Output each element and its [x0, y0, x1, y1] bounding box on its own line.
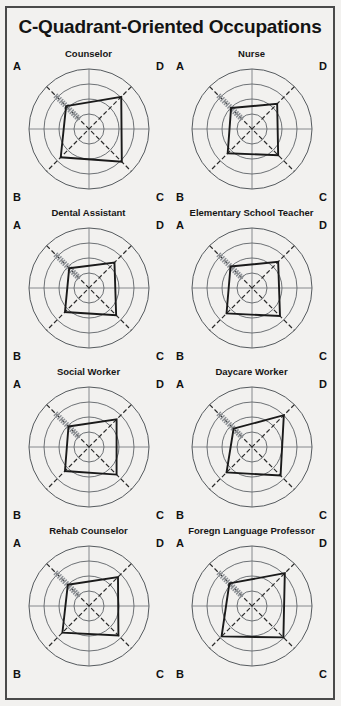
radar-chart-cell: Foregn Language ProfessorADBC [170, 525, 333, 684]
radar-chart-cell: Rehab CounselorADBC [7, 525, 170, 684]
radar-chart-cell: Social WorkerADBC [7, 366, 170, 525]
radar-plot [20, 219, 158, 357]
radar-plot [183, 378, 321, 516]
chart-title: Counselor [7, 48, 170, 59]
radar-plot [183, 219, 321, 357]
charts-grid: CounselorADBCNurseADBCDental AssistantAD… [7, 48, 333, 684]
radar-plot [20, 60, 158, 198]
radar-plot [20, 378, 158, 516]
chart-title: Dental Assistant [7, 207, 170, 218]
radar-plot [20, 537, 158, 675]
radar-chart-cell: NurseADBC [170, 48, 333, 207]
chart-title: Elementary School Teacher [170, 207, 333, 218]
poster-page: C-Quadrant-Oriented Occupations Counselo… [0, 0, 341, 706]
radar-chart-cell: Daycare WorkerADBC [170, 366, 333, 525]
radar-chart-cell: Elementary School TeacherADBC [170, 207, 333, 366]
radar-plot [183, 60, 321, 198]
radar-plot [183, 537, 321, 675]
chart-title: Nurse [170, 48, 333, 59]
radar-chart-cell: Dental AssistantADBC [7, 207, 170, 366]
page-title: C-Quadrant-Oriented Occupations [7, 16, 333, 38]
chart-title: Daycare Worker [170, 366, 333, 377]
chart-title: Rehab Counselor [7, 525, 170, 536]
chart-title: Social Worker [7, 366, 170, 377]
poster-frame: C-Quadrant-Oriented Occupations Counselo… [5, 6, 335, 700]
chart-title: Foregn Language Professor [170, 525, 333, 536]
radar-chart-cell: CounselorADBC [7, 48, 170, 207]
